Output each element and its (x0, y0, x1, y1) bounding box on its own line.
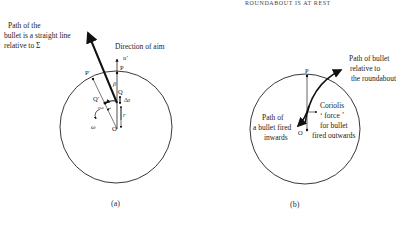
relative-path-label-line2: relative to (350, 64, 380, 73)
arc-q-qprime (106, 101, 116, 103)
relative-path-label-line3: the roundabout (351, 74, 396, 83)
caption-b: (b) (290, 200, 299, 209)
bullet-path-label-line3: relative to Σ (4, 41, 40, 50)
beta-symbol: β (113, 80, 116, 89)
r-symbol: r (123, 110, 126, 119)
delta-r-symbol: Δr (124, 95, 130, 104)
bullet-path-label-line2: bullet is a straight line (4, 31, 71, 40)
inward-label-line2: a bullet fired (253, 123, 291, 132)
r-omega-symbol: rω (98, 103, 103, 112)
inward-label-line3: inwards (264, 133, 288, 142)
point-p-prime-label: P′ (85, 68, 90, 77)
inward-label-line1: Path of (262, 113, 283, 122)
coriolis-label-line2: ‘ force ’ (320, 111, 344, 120)
coriolis-label-line4: fired outwards (312, 131, 356, 140)
omega-symbol: ω (91, 122, 96, 131)
point-o-label-a: O (112, 124, 117, 133)
bullet-path-arrow (88, 33, 117, 103)
bullet-path-label-line1: Path of the (8, 21, 41, 30)
point-o-label-b: O (298, 128, 303, 137)
caption-a: (a) (111, 199, 120, 208)
u-prime-symbol: u′ (123, 53, 128, 62)
figure-a (60, 33, 172, 183)
relative-path-label-line1: Path of bullet (349, 54, 389, 63)
point-q-prime-label: Q′ (93, 94, 99, 103)
coriolis-label-line1: Coriolis (320, 101, 344, 110)
point-p-label-b: P (305, 66, 309, 75)
point-p-label: P (120, 63, 124, 72)
point-q-label: Q (118, 87, 123, 96)
direction-of-aim-label: Direction of aim (115, 42, 165, 51)
coriolis-label-line3: for bullet (320, 121, 348, 130)
